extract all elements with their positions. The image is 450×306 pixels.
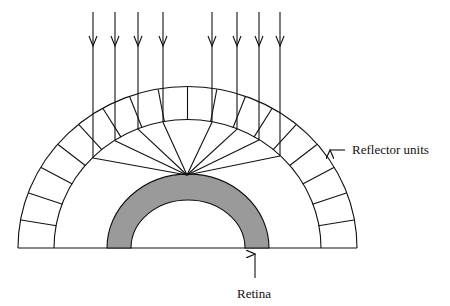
reflector-unit-divider [79, 125, 102, 150]
reflected-ray [187, 122, 212, 175]
reflected-ray [187, 129, 237, 175]
reflector-unit-divider [103, 109, 121, 138]
reflected-ray [163, 122, 187, 175]
retina-label: Retina [237, 286, 271, 302]
reflector-unit-divider [233, 97, 245, 128]
incoming-rays [89, 12, 284, 175]
reflector-unit-divider [254, 109, 272, 138]
reflected-ray [187, 156, 280, 175]
reflector-unit-divider [289, 145, 317, 166]
reflector-unit-divider [21, 220, 56, 226]
reflector-dividers [21, 87, 354, 226]
reflector-unit-divider [58, 145, 86, 166]
reflector-unit-divider [41, 168, 72, 185]
reflector-unit-divider [318, 220, 353, 226]
reflector-unit-divider [312, 193, 346, 204]
retina [107, 174, 269, 248]
reflector-unit-divider [273, 125, 296, 150]
reflector-unit-divider [29, 193, 63, 204]
reflected-ray [138, 129, 187, 175]
reflected-ray [187, 140, 259, 175]
reflector-unit-divider [130, 97, 142, 128]
reflector-unit-divider [303, 168, 334, 185]
reflector-units-label: Reflector units [352, 142, 429, 158]
reflected-ray [93, 158, 187, 175]
reflected-ray [115, 141, 187, 175]
